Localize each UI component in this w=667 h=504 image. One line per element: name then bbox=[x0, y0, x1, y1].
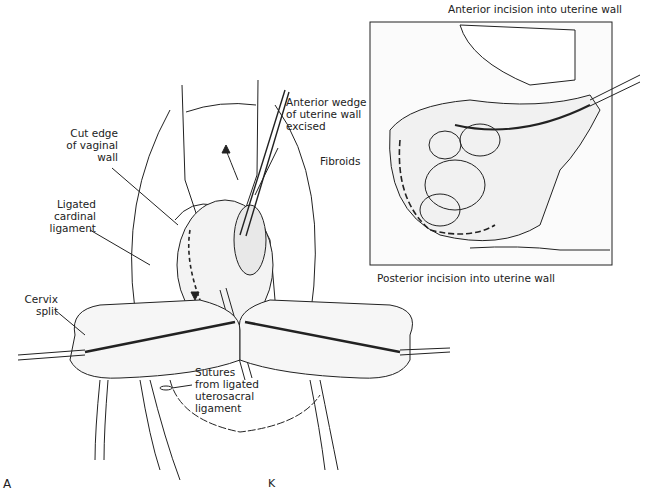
label-line: uterosacral bbox=[195, 390, 259, 402]
panel-label: A bbox=[3, 478, 11, 490]
label-line: Cervix bbox=[10, 293, 58, 305]
label-line: ligament bbox=[195, 402, 259, 414]
label-line: Cut edge bbox=[62, 127, 118, 139]
label-line: ligament bbox=[40, 222, 96, 234]
inset-top-caption: Anterior incision into uterine wall bbox=[448, 3, 622, 15]
surgical-illustration bbox=[0, 0, 667, 504]
label-cervix-split: Cervix split bbox=[10, 293, 58, 317]
label-line: cardinal bbox=[40, 210, 96, 222]
label-anterior-wedge: Anterior wedge of uterine wall excised bbox=[286, 96, 367, 132]
label-cardinal-ligament: Ligated cardinal ligament bbox=[40, 198, 96, 234]
label-line: excised bbox=[286, 120, 367, 132]
label-line: split bbox=[10, 305, 58, 317]
label-line: wall bbox=[62, 151, 118, 163]
label-line: from ligated bbox=[195, 378, 259, 390]
label-fibroids: Fibroids bbox=[320, 155, 360, 167]
label-sutures: Sutures from ligated uterosacral ligamen… bbox=[195, 366, 259, 414]
label-line: of uterine wall bbox=[286, 108, 367, 120]
inset-bottom-caption: Posterior incision into uterine wall bbox=[377, 272, 555, 284]
label-line: Anterior wedge bbox=[286, 96, 367, 108]
label-line: Ligated bbox=[40, 198, 96, 210]
label-line: Sutures bbox=[195, 366, 259, 378]
artist-signature: K bbox=[268, 478, 275, 490]
label-cut-edge: Cut edge of vaginal wall bbox=[62, 127, 118, 163]
label-line: of vaginal bbox=[62, 139, 118, 151]
